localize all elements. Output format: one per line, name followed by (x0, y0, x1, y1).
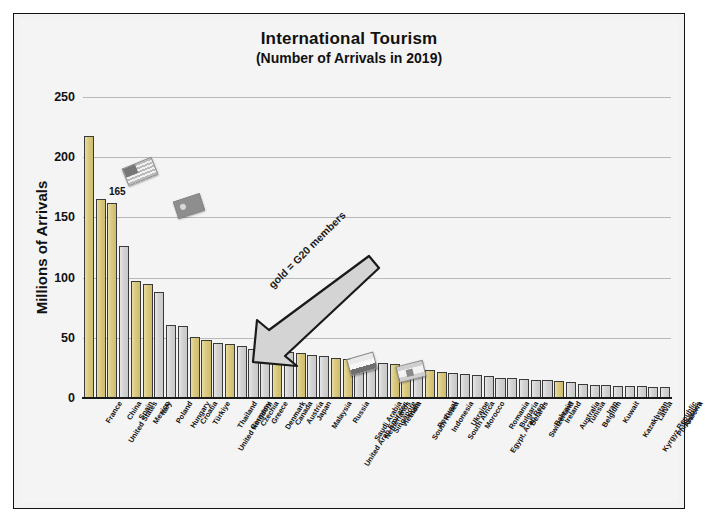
bar (519, 379, 529, 398)
bar (190, 337, 200, 398)
x-axis-labels: FranceUnited StatesChinaSpainMexicoItaly… (83, 400, 671, 510)
bar (178, 326, 188, 398)
bar (237, 346, 247, 398)
y-axis-tick-label: 150 (54, 210, 75, 224)
bar (154, 292, 164, 398)
bar (460, 374, 470, 398)
bar (319, 356, 329, 398)
bar (272, 351, 282, 398)
x-axis-tick-label: Russia (351, 400, 371, 425)
bar (143, 284, 153, 398)
bar-series (83, 97, 671, 398)
bar (378, 363, 388, 398)
bar (590, 385, 600, 398)
y-axis-tick-label: 250 (54, 90, 75, 104)
y-axis-tick-label: 200 (54, 150, 75, 164)
chart-subtitle: (Number of Arrivals in 2019) (14, 49, 684, 68)
chart-figure: International Tourism (Number of Arrival… (13, 13, 685, 509)
y-axis-tick-label: 50 (61, 331, 75, 345)
bar (472, 375, 482, 398)
y-axis-title: Millions of Arrivals (32, 97, 52, 398)
bar (260, 350, 270, 398)
data-label-united-states: 165 (109, 186, 126, 197)
bar (448, 373, 458, 398)
x-axis-tick-label: Kuwait (622, 400, 642, 425)
bar (437, 372, 447, 398)
bar (107, 203, 117, 398)
bar (201, 340, 211, 398)
bar (331, 358, 341, 398)
bar (507, 378, 517, 398)
bar (566, 382, 576, 398)
bar (119, 246, 129, 398)
bar (495, 378, 505, 398)
x-axis-line (82, 397, 672, 399)
y-axis-title-text: Millions of Arrivals (34, 181, 51, 315)
bar (96, 199, 106, 398)
bar (166, 325, 176, 398)
bar (248, 349, 258, 398)
y-axis-tick-label: 0 (68, 391, 75, 405)
y-axis-tick-label: 100 (54, 271, 75, 285)
plot-area: 050100150200250 (83, 97, 671, 398)
bar (578, 384, 588, 398)
x-axis-tick-label: France (104, 400, 124, 425)
x-axis-tick-label: Malaysia (331, 400, 354, 430)
bar (213, 343, 223, 398)
bar (484, 376, 494, 398)
bar (225, 344, 235, 398)
bar (284, 352, 294, 398)
bar (554, 381, 564, 398)
bar (84, 136, 94, 398)
bar (542, 380, 552, 398)
bar (131, 281, 141, 398)
bar (601, 385, 611, 398)
page-title: International Tourism (14, 28, 684, 49)
chart-title-block: International Tourism (Number of Arrival… (14, 28, 684, 68)
bar (531, 380, 541, 398)
bar (296, 353, 306, 398)
bar (307, 355, 317, 398)
